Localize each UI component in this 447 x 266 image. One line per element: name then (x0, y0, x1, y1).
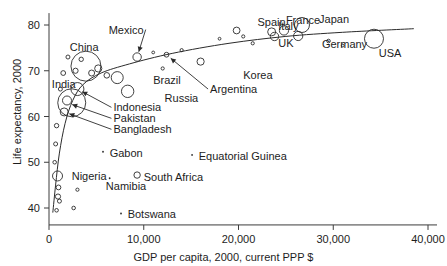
x-axis-title: GDP per capita, 2000, current PPP $ (0, 251, 447, 263)
x-tick-label: 10,000 (104, 233, 184, 245)
data-point (56, 185, 61, 190)
data-point (89, 70, 95, 76)
data-point (55, 194, 60, 199)
data-point (54, 142, 58, 146)
country-label: USA (379, 47, 402, 59)
plot-area (0, 0, 447, 266)
annotation-arrowhead (138, 46, 143, 52)
x-tick-label: 0 (9, 233, 89, 245)
data-point (152, 51, 155, 54)
country-label: Nigeria (72, 170, 107, 182)
data-point (133, 53, 141, 61)
data-point (53, 160, 57, 164)
data-point (54, 123, 58, 127)
country-label: UK (278, 37, 293, 49)
y-axis-title: Life expectancy, 2000 (11, 58, 23, 164)
data-point (251, 42, 254, 45)
x-tick-label: 40,000 (388, 233, 447, 245)
data-point (197, 58, 204, 65)
data-point (233, 27, 240, 34)
y-tick-label: 80 (0, 19, 40, 31)
axes-group (44, 13, 437, 230)
country-label: Botswana (128, 208, 176, 220)
country-label: Namibia (106, 180, 146, 192)
country-label: Korea (243, 69, 272, 81)
country-label: Bangladesh (113, 123, 171, 135)
country-label: Brazil (153, 74, 181, 86)
data-point (134, 172, 140, 178)
country-label: Equatorial Guinea (199, 150, 287, 162)
data-point (218, 37, 221, 40)
country-label: Russia (165, 92, 199, 104)
country-label: China (70, 41, 99, 53)
data-point (104, 73, 110, 79)
data-point (66, 55, 70, 59)
data-point (73, 68, 78, 73)
y-tick-label: 40 (0, 202, 40, 214)
data-point (364, 29, 383, 48)
country-label: Mexico (109, 24, 144, 36)
scatter-chart: ChinaIndiaMexicoBrazilRussiaIndonesiaPak… (0, 0, 447, 266)
data-point (102, 151, 104, 153)
country-label: Gabon (110, 147, 143, 159)
data-point (76, 188, 79, 191)
data-point (161, 67, 164, 70)
data-point (53, 171, 63, 181)
annotation-leader (72, 105, 111, 119)
country-label: Argentina (210, 83, 257, 95)
data-point (71, 51, 101, 81)
data-point (79, 57, 83, 61)
data-point (111, 72, 123, 84)
data-point (55, 208, 59, 212)
data-point (191, 154, 193, 156)
data-point (242, 35, 245, 38)
data-point (109, 177, 111, 179)
country-label: France (286, 14, 320, 26)
x-tick-label: 30,000 (293, 233, 373, 245)
data-point (72, 206, 76, 210)
data-point (63, 96, 72, 105)
data-point (61, 71, 66, 76)
data-point (121, 85, 133, 97)
country-label: Japan (319, 13, 349, 25)
country-label: India (52, 78, 76, 90)
x-tick-label: 20,000 (199, 233, 279, 245)
country-label: Germany (322, 38, 367, 50)
data-point (57, 199, 61, 203)
country-label: South Africa (144, 171, 203, 183)
data-point (120, 213, 122, 215)
